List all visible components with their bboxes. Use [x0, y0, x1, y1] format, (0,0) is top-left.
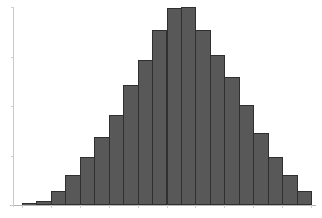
histogram-bar [268, 157, 283, 205]
histogram-bar [22, 203, 37, 205]
histogram-bar [123, 85, 138, 205]
histogram-bar [253, 133, 268, 205]
histogram-bar [239, 105, 254, 205]
histogram-bar [65, 175, 80, 205]
y-axis-tick [11, 7, 14, 8]
histogram-bar [80, 157, 95, 205]
histogram-bar [297, 191, 312, 205]
x-axis-tick [109, 205, 110, 208]
histogram-bar [36, 201, 51, 205]
histogram-bar [94, 137, 109, 205]
histogram-bar [195, 30, 210, 205]
histogram-chart [0, 0, 322, 218]
x-axis-tick [195, 205, 196, 208]
histogram-bar [152, 30, 167, 205]
x-axis-tick [311, 205, 312, 208]
y-axis-tick [11, 106, 14, 107]
x-axis-tick [224, 205, 225, 208]
histogram-bar [51, 191, 66, 205]
histogram-bar [181, 7, 196, 205]
x-axis-tick [22, 205, 23, 208]
histogram-bar [210, 55, 225, 205]
x-axis-tick [51, 205, 52, 208]
histogram-bar [109, 115, 124, 205]
y-axis-tick [11, 57, 14, 58]
x-axis-tick [253, 205, 254, 208]
histogram-bar [167, 8, 182, 205]
y-axis-tick [11, 156, 14, 157]
histogram-bar [138, 60, 153, 205]
histogram-bar [224, 77, 239, 205]
histogram-bars [0, 0, 322, 218]
x-axis-tick [282, 205, 283, 208]
x-axis-tick [167, 205, 168, 208]
histogram-bar [282, 175, 297, 205]
x-axis-tick [138, 205, 139, 208]
x-axis-tick [80, 205, 81, 208]
y-axis-tick [11, 205, 14, 206]
